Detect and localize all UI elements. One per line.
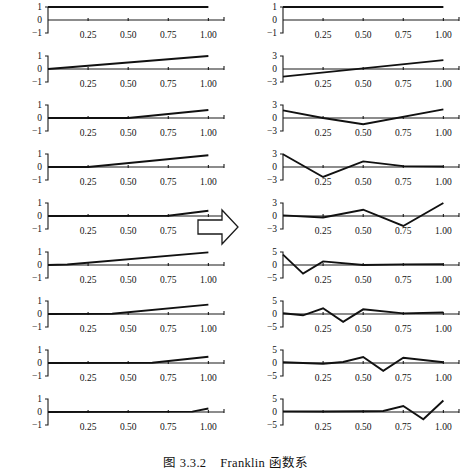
y-axis: [280, 252, 283, 278]
x-tick-label: 0.50: [355, 226, 372, 236]
y-axis: [280, 56, 283, 82]
x-tick-label: 0.75: [160, 373, 177, 383]
franklin-function-figure: 10−10.250.500.751.0010−10.250.500.751.00…: [0, 0, 471, 475]
x-tick-label: 0.75: [160, 324, 177, 334]
chart-panel-right-4: 30−30.250.500.751.00: [239, 147, 471, 196]
x-tick-label: 0.25: [80, 79, 97, 89]
y-tick-label: 0: [272, 162, 277, 172]
y-tick-label: −1: [32, 273, 42, 283]
x-tick-label: 1.00: [200, 324, 217, 334]
right-block-arrow-icon: [196, 206, 240, 248]
y-axis: [45, 105, 48, 131]
y-tick-label: −1: [267, 28, 277, 38]
y-axis: [280, 154, 283, 180]
y-tick-label: 3: [272, 149, 277, 159]
x-tick-label: 0.50: [120, 177, 137, 187]
x-tick-label: 0.25: [315, 275, 332, 285]
y-tick-label: 5: [272, 345, 277, 355]
y-tick-label: −5: [267, 322, 277, 332]
y-tick-label: 5: [272, 247, 277, 257]
y-tick-label: 1: [37, 394, 42, 404]
y-tick-label: 0: [272, 260, 277, 270]
y-tick-label: 0: [272, 211, 277, 221]
x-tick-label: 1.00: [435, 373, 452, 383]
y-tick-label: 0: [37, 211, 42, 221]
y-tick-label: 1: [37, 198, 42, 208]
y-tick-label: 0: [37, 407, 42, 417]
x-tick-label: 0.75: [395, 226, 412, 236]
y-tick-label: −3: [267, 175, 277, 185]
data-curve: [283, 401, 443, 420]
x-tick-label: 1.00: [200, 422, 217, 432]
chart-panel-left-9: 10−10.250.500.751.00: [4, 392, 236, 441]
y-tick-label: 0: [37, 162, 42, 172]
y-axis: [45, 252, 48, 278]
data-curve: [283, 255, 443, 274]
x-tick-label: 0.50: [120, 79, 137, 89]
x-tick-label: 0.25: [80, 275, 97, 285]
data-curve: [48, 211, 208, 216]
x-tick-label: 0.50: [120, 275, 137, 285]
x-tick-label: 0.75: [160, 79, 177, 89]
y-axis: [45, 350, 48, 376]
chart-panel-right-2: 30−30.250.500.751.00: [239, 49, 471, 98]
x-tick-label: 0.50: [355, 373, 372, 383]
chart-panel-right-7: 50−50.250.500.751.00: [239, 294, 471, 343]
x-tick-label: 1.00: [435, 79, 452, 89]
x-tick-label: 0.75: [160, 275, 177, 285]
chart-panel-left-1: 10−10.250.500.751.00: [4, 0, 236, 49]
x-tick-label: 0.75: [395, 275, 412, 285]
chart-panel-right-5: 30−30.250.500.751.00: [239, 196, 471, 245]
y-tick-label: 1: [37, 2, 42, 12]
y-tick-label: −3: [267, 77, 277, 87]
chart-panel-left-7: 10−10.250.500.751.00: [4, 294, 236, 343]
y-tick-label: 0: [272, 358, 277, 368]
y-tick-label: 0: [272, 15, 277, 25]
y-axis: [45, 203, 48, 229]
y-tick-label: −3: [267, 126, 277, 136]
x-tick-label: 0.25: [315, 79, 332, 89]
y-tick-label: −5: [267, 371, 277, 381]
x-tick-label: 0.25: [315, 226, 332, 236]
y-tick-label: 1: [37, 149, 42, 159]
y-tick-label: 5: [272, 296, 277, 306]
x-tick-label: 0.50: [355, 128, 372, 138]
y-tick-label: −1: [32, 28, 42, 38]
x-tick-label: 0.25: [315, 30, 332, 40]
y-axis: [280, 301, 283, 327]
y-tick-label: −1: [32, 371, 42, 381]
x-tick-label: 1.00: [200, 79, 217, 89]
y-axis: [280, 399, 283, 425]
data-curve: [283, 308, 443, 322]
x-tick-label: 0.75: [395, 128, 412, 138]
x-tick-label: 0.50: [355, 324, 372, 334]
y-tick-label: 0: [37, 309, 42, 319]
x-tick-label: 0.50: [120, 30, 137, 40]
x-tick-label: 0.50: [355, 422, 372, 432]
x-tick-label: 1.00: [200, 128, 217, 138]
y-tick-label: −1: [32, 224, 42, 234]
x-tick-label: 0.75: [160, 177, 177, 187]
y-axis: [280, 7, 283, 33]
x-tick-label: 0.75: [395, 177, 412, 187]
y-axis: [280, 203, 283, 229]
y-axis: [280, 350, 283, 376]
y-tick-label: −5: [267, 420, 277, 430]
x-tick-label: 0.75: [160, 422, 177, 432]
y-tick-label: 0: [37, 15, 42, 25]
y-tick-label: −1: [32, 77, 42, 87]
y-axis: [45, 7, 48, 33]
y-tick-label: 0: [272, 309, 277, 319]
x-tick-label: 0.25: [315, 373, 332, 383]
x-tick-label: 0.50: [120, 373, 137, 383]
y-tick-label: 1: [272, 2, 277, 12]
x-tick-label: 0.50: [355, 30, 372, 40]
y-tick-label: 1: [37, 100, 42, 110]
x-tick-label: 0.25: [80, 422, 97, 432]
y-tick-label: −1: [32, 126, 42, 136]
data-curve: [48, 305, 208, 314]
x-tick-label: 0.75: [395, 373, 412, 383]
y-axis: [45, 399, 48, 425]
x-tick-label: 1.00: [200, 275, 217, 285]
y-tick-label: 0: [37, 260, 42, 270]
